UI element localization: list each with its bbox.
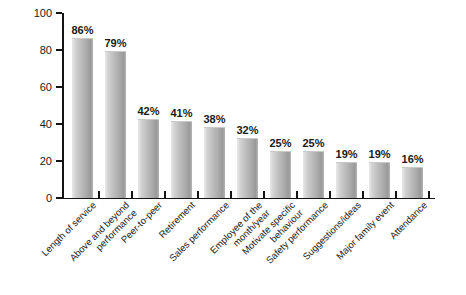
bar: 38%: [204, 127, 225, 198]
bar-value-label: 16%: [402, 154, 424, 165]
bar: 79%: [105, 51, 126, 198]
bar-value-label: 41%: [170, 108, 192, 119]
bar: 19%: [336, 162, 357, 198]
bar-value-label: 86%: [71, 25, 93, 36]
bar-value-label: 38%: [203, 114, 225, 125]
y-axis-tick-label: 80: [40, 44, 52, 55]
bar-value-label: 79%: [104, 38, 126, 49]
bar-value-label: 19%: [336, 149, 358, 160]
category-label: Major family event: [334, 200, 396, 262]
bars-layer: 86%79%42%41%38%32%25%25%19%19%16%: [62, 13, 435, 198]
bar: 19%: [369, 162, 390, 198]
y-axis-tick-label: 60: [40, 81, 52, 92]
category-label-line: Major family event: [334, 200, 396, 262]
y-axis-tick-label: 40: [40, 118, 52, 129]
y-axis-tick-label: 0: [46, 192, 52, 203]
bar: 42%: [138, 119, 159, 198]
bar-chart: 020406080100 86%79%42%41%38%32%25%25%19%…: [0, 0, 466, 295]
bar: 32%: [237, 138, 258, 198]
y-axis-tick-label: 20: [40, 155, 52, 166]
category-label: Suggestions/ideas: [301, 200, 363, 262]
category-label-line: Suggestions/ideas: [301, 200, 363, 262]
bar-value-label: 42%: [137, 106, 159, 117]
bar: 16%: [402, 167, 423, 198]
y-axis-tick-label: 100: [34, 7, 52, 18]
category-labels: Length of serviceAbove and beyondperform…: [62, 200, 466, 295]
bar: 41%: [171, 121, 192, 198]
bar-value-label: 32%: [236, 125, 258, 136]
bar-value-label: 19%: [369, 149, 391, 160]
bar: 86%: [72, 38, 93, 198]
bar-value-label: 25%: [303, 138, 325, 149]
bar: 25%: [270, 151, 291, 198]
bar-value-label: 25%: [270, 138, 292, 149]
bar: 25%: [303, 151, 324, 198]
